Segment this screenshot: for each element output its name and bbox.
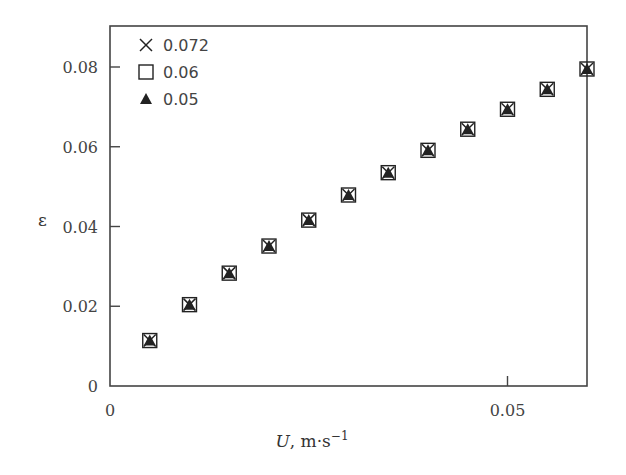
legend-label: 0.05 — [163, 90, 199, 109]
y-axis: 00.020.040.060.08 — [62, 58, 120, 396]
x-axis-label: U, m·s−1 — [275, 429, 348, 451]
y-axis-label: ε — [38, 210, 47, 230]
x-axis-label-exponent: −1 — [331, 429, 349, 443]
y-tick-label: 0.08 — [62, 58, 98, 77]
series-0.05 — [144, 63, 593, 346]
legend-label: 0.072 — [163, 36, 209, 55]
legend-item: 0.06 — [139, 63, 199, 82]
y-tick-label: 0.04 — [62, 218, 98, 237]
y-tick-label: 0.06 — [62, 138, 98, 157]
legend-item: 0.072 — [140, 36, 209, 55]
x-axis-label-unit: , m·s — [290, 431, 331, 451]
y-tick-label: 0.02 — [62, 297, 98, 316]
x-tick-label: 0.05 — [490, 401, 526, 420]
scatter-chart: 00.020.040.060.08 00.05 0.0720.060.05 ε … — [0, 0, 626, 475]
filled-triangle-marker — [140, 93, 152, 104]
legend-item: 0.05 — [140, 90, 199, 109]
y-tick-label: 0 — [88, 377, 98, 396]
open-square-marker — [139, 65, 153, 79]
x-tick-label: 0 — [105, 401, 115, 420]
x-marker — [140, 39, 152, 51]
x-axis: 00.05 — [105, 376, 525, 420]
series-0.072 — [144, 63, 593, 347]
series-0.06 — [143, 62, 594, 348]
legend: 0.0720.060.05 — [139, 36, 209, 109]
legend-label: 0.06 — [163, 63, 199, 82]
data-points — [143, 62, 594, 348]
x-axis-label-variable: U — [275, 431, 290, 451]
